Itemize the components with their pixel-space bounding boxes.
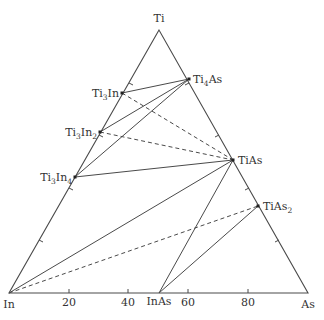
point-TiAs2	[257, 205, 260, 208]
tick-label-40: 40	[121, 296, 135, 309]
vertex-label-In: In	[3, 298, 14, 311]
phase-label-TiAs2: TiAs2	[263, 200, 292, 215]
tick-label-20: 20	[62, 296, 76, 309]
point-Ti3In2	[99, 131, 102, 134]
ternary-phase-diagram: Ti In As 20 40 60 80 Ti3In Ti3In2 Ti3In4…	[0, 0, 324, 320]
tie-line-Ti3In-Ti4As	[122, 79, 189, 93]
tie-line-Ti3In-TiAs	[122, 93, 233, 160]
tie-line-InAs-TiAs	[159, 160, 233, 293]
tick-label-80: 80	[241, 296, 255, 309]
bottom-axis-ticks	[69, 289, 248, 293]
phase-label-Ti4As: Ti4As	[193, 73, 223, 88]
tick-label-60: 60	[181, 296, 195, 309]
point-Ti3In4	[74, 176, 77, 179]
point-Ti3In	[121, 92, 124, 95]
left-edge-ticks	[39, 83, 133, 242]
vertex-label-Ti: Ti	[154, 12, 165, 25]
composition-triangle	[9, 30, 308, 293]
tie-line-InAs-TiAs2	[159, 206, 258, 293]
phase-label-InAs: InAs	[146, 295, 171, 308]
tie-line-Ti3In2-TiAs	[100, 132, 233, 160]
point-Ti4As	[188, 78, 191, 81]
vertex-label-As: As	[300, 298, 315, 311]
phase-label-TiAs: TiAs	[238, 154, 263, 167]
tie-lines	[9, 79, 258, 293]
phase-label-Ti3In2: Ti3In2	[65, 126, 97, 141]
phase-label-Ti3In: Ti3In	[92, 87, 119, 102]
phase-label-Ti3In4: Ti3In4	[40, 171, 72, 186]
point-TiAs	[232, 159, 235, 162]
